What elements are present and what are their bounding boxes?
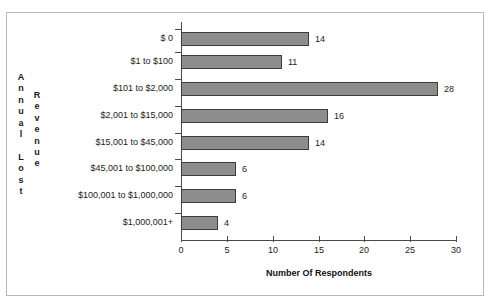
y-axis-tick-2 xyxy=(175,79,182,80)
x-axis-tick-5 xyxy=(410,236,411,242)
y-axis-label-1: $1 to $100 xyxy=(130,56,173,66)
y-axis-tick-4 xyxy=(175,133,182,134)
y-axis-label-5: $45,001 to $100,000 xyxy=(90,163,173,173)
y-axis-tick-6 xyxy=(175,186,182,187)
x-axis-tick-4 xyxy=(364,236,365,242)
x-axis-tick-label-5: 25 xyxy=(398,245,422,256)
bar-value-1: 11 xyxy=(288,57,297,67)
bar-6 xyxy=(181,189,236,203)
y-axis-tick-0 xyxy=(175,29,182,30)
x-axis-title: Number Of Respondents xyxy=(181,268,457,278)
bar-value-7: 4 xyxy=(224,218,229,228)
bar-2 xyxy=(181,82,438,96)
bar-value-0: 14 xyxy=(315,34,325,44)
bar-3 xyxy=(181,109,328,123)
y-axis-tick-7 xyxy=(175,213,182,214)
y-axis-label-6: $100,001 to $1,000,000 xyxy=(78,190,173,200)
y-axis-label-4: $15,001 to $45,000 xyxy=(95,137,173,147)
bar-value-6: 6 xyxy=(242,191,247,201)
bar-4 xyxy=(181,136,309,150)
y-axis-category-labels: $ 0 $1 to $100 $101 to $2,000 $2,001 to … xyxy=(0,0,173,307)
x-axis-tick-label-2: 10 xyxy=(261,245,285,256)
bar-1 xyxy=(181,55,282,69)
x-axis-tick-label-6: 30 xyxy=(444,245,468,256)
bar-7 xyxy=(181,216,218,230)
bar-value-3: 16 xyxy=(334,111,344,121)
x-axis-tick-label-1: 5 xyxy=(215,245,239,256)
y-axis-label-7: $1,000,001+ xyxy=(123,217,173,227)
y-axis-tick-1 xyxy=(175,52,182,53)
y-axis-label-2: $101 to $2,000 xyxy=(113,83,173,93)
y-axis-tick-3 xyxy=(175,106,182,107)
bar-value-5: 6 xyxy=(242,164,247,174)
x-axis-tick-label-3: 15 xyxy=(307,245,331,256)
x-axis-tick-label-4: 20 xyxy=(352,245,376,256)
bar-5 xyxy=(181,162,236,176)
bar-chart-figure: A n n u a l L o s t R e v e n u e $ 0 $1… xyxy=(0,0,492,307)
x-axis-tick-1 xyxy=(227,236,228,242)
y-axis-tick-5 xyxy=(175,159,182,160)
x-axis-tick-2 xyxy=(273,236,274,242)
x-axis-tick-label-0: 0 xyxy=(169,245,193,256)
x-axis-tick-6 xyxy=(456,236,457,242)
bar-value-2: 28 xyxy=(444,84,454,94)
x-axis-tick-0 xyxy=(181,236,182,242)
bar-0 xyxy=(181,32,309,46)
x-axis-tick-3 xyxy=(319,236,320,242)
y-axis-label-0: $ 0 xyxy=(160,33,173,43)
y-axis-label-3: $2,001 to $15,000 xyxy=(100,110,173,120)
bar-value-4: 14 xyxy=(315,138,325,148)
